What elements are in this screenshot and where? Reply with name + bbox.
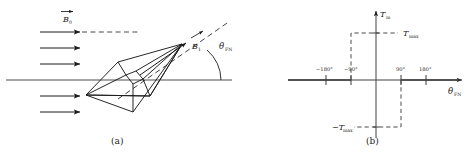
dashed-positive-step bbox=[351, 33, 398, 80]
y-axis-label-subscript: m bbox=[386, 15, 391, 20]
crystal-particle bbox=[86, 44, 182, 112]
x-axis-label-group: θ FN bbox=[448, 86, 461, 97]
crystal-edge bbox=[118, 62, 126, 75]
x-axis-label-subscript: FN bbox=[454, 92, 461, 97]
field-label-B: B bbox=[62, 15, 69, 24]
annotation-minus-Tmax: −T max bbox=[332, 123, 353, 133]
crystal-outline-lower bbox=[86, 44, 182, 112]
label-Tmax-subscript: max bbox=[409, 34, 419, 39]
induced-label-subscript: 1 bbox=[198, 47, 201, 52]
caption-panel-b: (b) bbox=[366, 136, 379, 146]
crystal-edge bbox=[86, 75, 126, 95]
x-axis-label-theta: θ bbox=[448, 86, 453, 96]
angle-label-group: θ FN bbox=[219, 41, 232, 52]
figure-container: B 0 B 1 bbox=[0, 0, 476, 161]
panel-a: B 0 B 1 bbox=[6, 12, 232, 113]
xtick-label-minus90: −90° bbox=[344, 66, 358, 72]
crystal-center-facet bbox=[126, 71, 143, 84]
angle-label-subscript: FN bbox=[225, 47, 232, 52]
annotation-Tmax: T max bbox=[403, 29, 419, 39]
y-axis-label-group: T m bbox=[380, 10, 391, 20]
dashed-negative-step bbox=[354, 80, 401, 127]
figure-svg: B 0 B 1 bbox=[0, 0, 476, 161]
vector-overarrow-B1 bbox=[191, 31, 203, 38]
panel-b: T m θ FN T max −T max −180° −90° 90° 180… bbox=[288, 10, 462, 138]
label-minus-Tmax-subscript: max bbox=[343, 128, 353, 133]
angle-arc bbox=[207, 50, 221, 80]
field-vector-label-group: B 0 bbox=[61, 12, 73, 25]
crystal-edge bbox=[136, 44, 182, 71]
angle-label-theta: θ bbox=[219, 41, 224, 51]
xtick-label-plus90: 90° bbox=[396, 66, 406, 72]
field-label-subscript: 0 bbox=[69, 20, 72, 25]
induced-label-B: B bbox=[191, 42, 198, 51]
caption-panel-a: (a) bbox=[111, 136, 123, 146]
xtick-label-plus180: 180° bbox=[419, 66, 432, 72]
incident-field-arrows bbox=[40, 32, 80, 112]
inclined-axis-dashed bbox=[118, 21, 230, 99]
xtick-label-minus180: −180° bbox=[316, 66, 333, 72]
